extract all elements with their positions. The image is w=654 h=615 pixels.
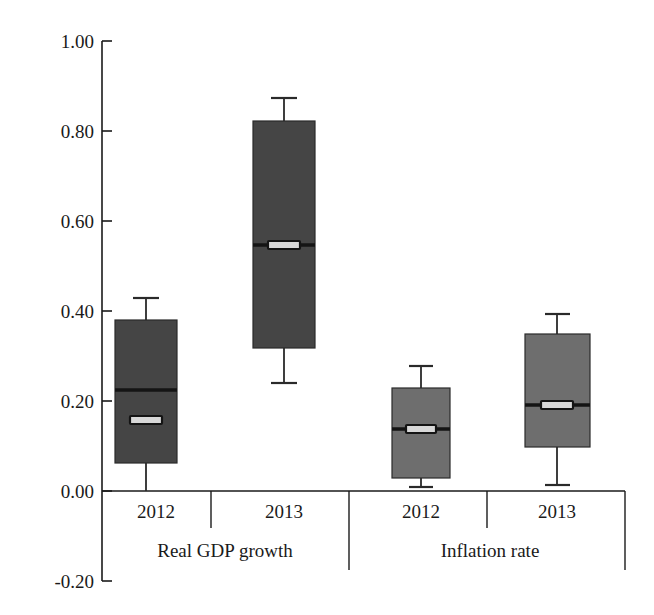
y-axis-ticks (102, 41, 112, 581)
y-tick-label: 0.60 (61, 211, 94, 232)
y-tick-label: 0.40 (61, 301, 94, 322)
box-body (253, 121, 315, 348)
y-tick-label: -0.20 (54, 571, 94, 592)
category-label-inflation-2012: 2012 (402, 501, 440, 522)
category-label-gdp-2013: 2013 (265, 501, 303, 522)
boxplot-inflation-rate-2012 (392, 366, 450, 487)
category-label-inflation-2013: 2013 (538, 501, 576, 522)
group-label-real-gdp-growth: Real GDP growth (157, 540, 293, 561)
boxplot-chart: 1.00 0.80 0.60 0.40 0.20 0.00 -0.20 (0, 0, 654, 615)
boxplot-inflation-rate-2013 (525, 314, 590, 485)
y-axis-labels: 1.00 0.80 0.60 0.40 0.20 0.00 -0.20 (54, 31, 94, 592)
boxplot-real-gdp-growth-2013 (253, 98, 315, 383)
mean-marker (541, 401, 573, 409)
boxplot-real-gdp-growth-2012 (115, 298, 177, 491)
chart-canvas: 1.00 0.80 0.60 0.40 0.20 0.00 -0.20 (0, 0, 654, 615)
category-labels: 2012 2013 2012 2013 (137, 501, 576, 522)
mean-marker (406, 425, 436, 433)
y-tick-label: 1.00 (61, 31, 94, 52)
mean-marker (268, 241, 300, 249)
y-tick-label: 0.00 (61, 481, 94, 502)
y-tick-label: 0.80 (61, 121, 94, 142)
group-label-inflation-rate: Inflation rate (441, 540, 540, 561)
y-tick-label: 0.20 (61, 391, 94, 412)
box-body (525, 334, 590, 447)
mean-marker (130, 416, 162, 424)
category-label-gdp-2012: 2012 (137, 501, 175, 522)
